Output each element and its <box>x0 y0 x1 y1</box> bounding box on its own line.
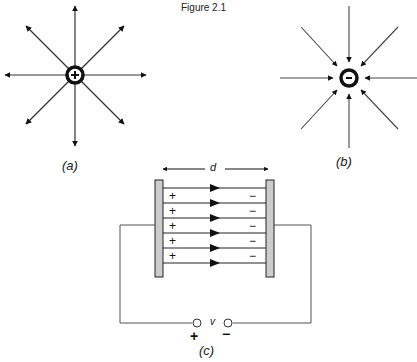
terminal-minus-sign: − <box>222 326 230 342</box>
plate-plus-sign: + <box>169 235 176 247</box>
left-capacitor-plate <box>155 180 163 277</box>
right-capacitor-plate <box>266 180 274 277</box>
plate-minus-sign: − <box>249 235 256 247</box>
figure-canvas <box>0 0 417 362</box>
plate-minus-sign: − <box>249 250 256 262</box>
plate-minus-sign: − <box>249 190 256 202</box>
caption-a: (a) <box>62 158 78 173</box>
plate-minus-sign: − <box>249 205 256 217</box>
positive-terminal <box>193 319 201 327</box>
plate-plus-sign: + <box>169 220 176 232</box>
caption-b: (b) <box>336 154 352 169</box>
caption-c: (c) <box>199 343 214 358</box>
figure-title: Figure 2.1 <box>181 2 226 13</box>
terminal-plus-sign: + <box>190 328 198 344</box>
circuit-wires <box>120 225 311 323</box>
separation-label: d <box>210 161 216 173</box>
plate-plus-sign: + <box>169 205 176 217</box>
negative-charge-icon <box>341 70 357 86</box>
voltage-label: v <box>210 316 215 327</box>
positive-charge-icon <box>67 67 83 83</box>
plate-plus-sign: + <box>169 190 176 202</box>
field-direction-arrowheads <box>210 184 220 267</box>
plate-minus-sign: − <box>249 220 256 232</box>
plate-plus-sign: + <box>169 250 176 262</box>
